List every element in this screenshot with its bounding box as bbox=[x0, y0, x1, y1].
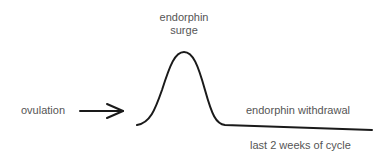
diagram-canvas bbox=[0, 0, 386, 153]
endorphin-curve bbox=[137, 52, 372, 130]
arrow-icon bbox=[80, 104, 123, 118]
